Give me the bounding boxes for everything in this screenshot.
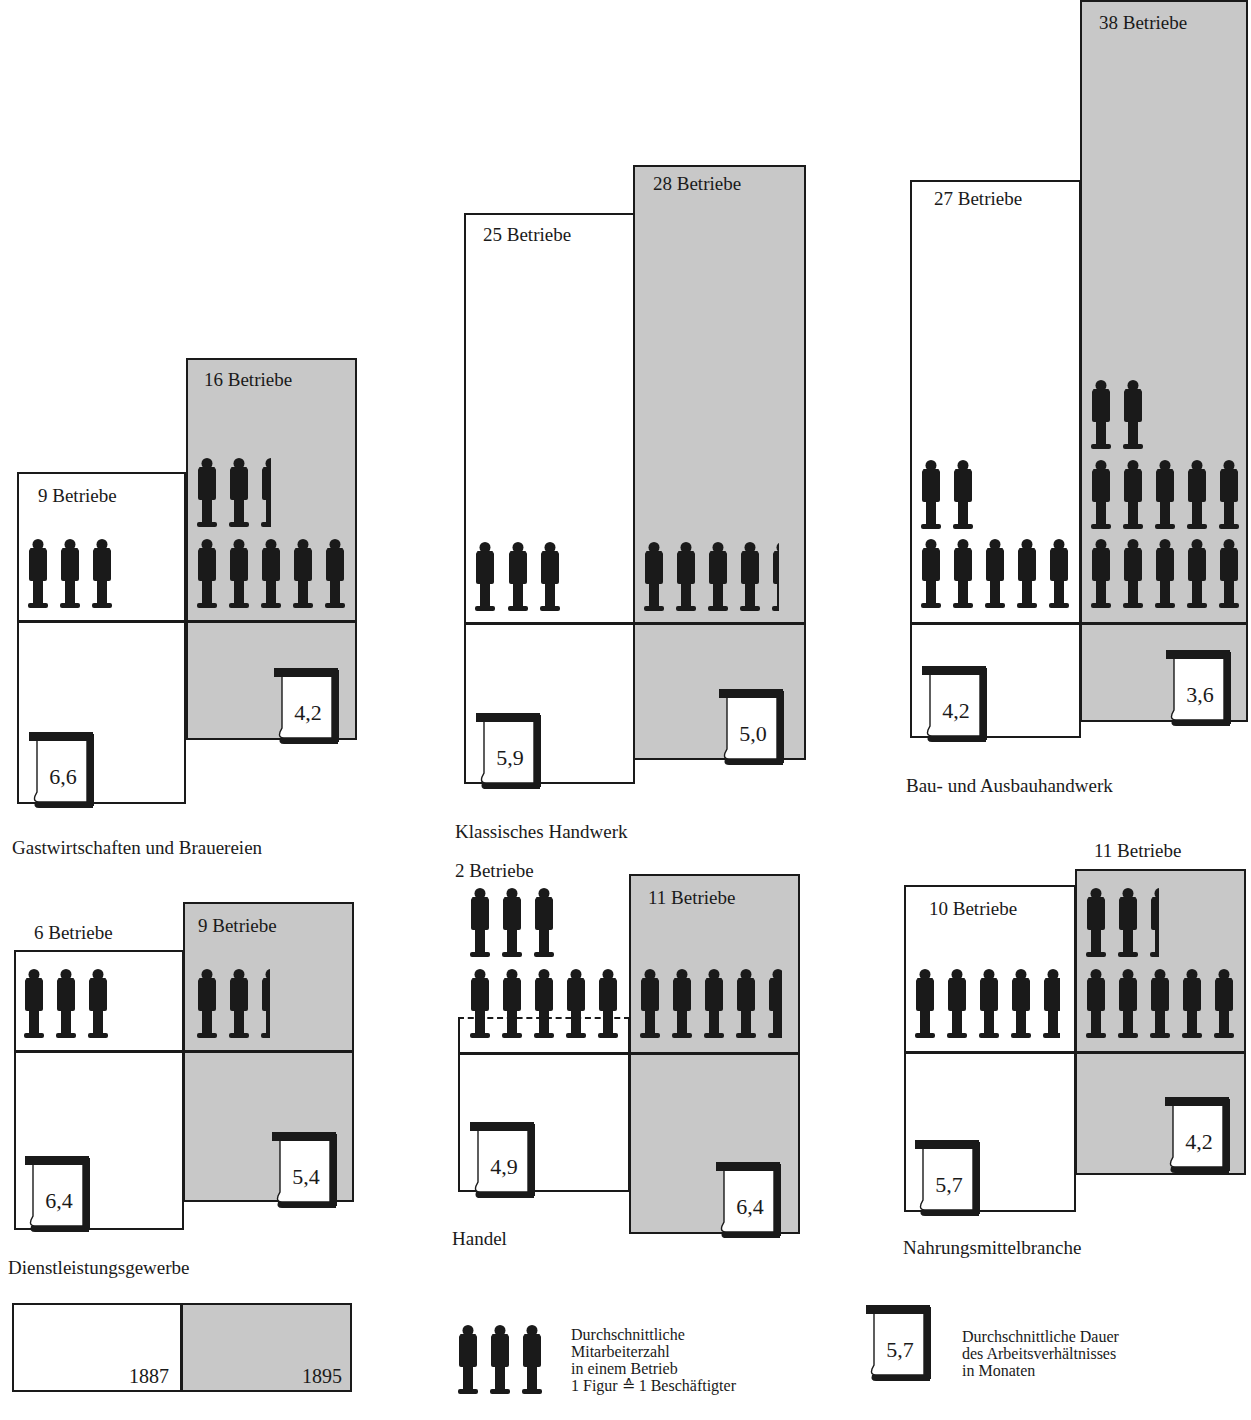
- person-figure-icon: [952, 460, 974, 530]
- calendar-icon: 5,7: [913, 1138, 983, 1218]
- person-figure-icon: [23, 969, 45, 1039]
- person-figure-icon: [1186, 539, 1208, 609]
- person-figure-icon: [1090, 380, 1112, 450]
- sector-title: Dienstleistungsgewerbe: [8, 1258, 190, 1277]
- betriebe-count-label: 25 Betriebe: [483, 225, 571, 244]
- legend-person-figure-icon: [457, 1325, 479, 1395]
- person-figure-icon: [597, 969, 619, 1039]
- calendar-icon: 6,4: [23, 1154, 93, 1234]
- baseline-divider: [17, 620, 357, 623]
- person-figure-icon: [1218, 460, 1240, 530]
- person-figure-icon: [533, 969, 555, 1039]
- calendar-icon: 5,4: [270, 1130, 340, 1210]
- betriebe-count-label: 16 Betriebe: [204, 370, 292, 389]
- betriebe-count-label: 9 Betriebe: [38, 486, 117, 505]
- person-figure-icon: [228, 458, 250, 528]
- person-figure-icon: [27, 539, 49, 609]
- person-figure-icon: [59, 539, 81, 609]
- person-figure-icon: [675, 542, 697, 612]
- person-figure-icon: [643, 542, 665, 612]
- legend-calendar-icon: 5,7: [864, 1303, 934, 1383]
- infographic-canvas: 9 Betriebe 6,616 Betriebe 4,2Gastwirtsch…: [0, 0, 1251, 1420]
- person-figure-icon: [533, 888, 555, 958]
- duration-months-value: 5,4: [282, 1166, 330, 1188]
- person-figure-icon: [1213, 969, 1235, 1039]
- person-figure-icon: [87, 969, 109, 1039]
- betriebe-count-label: 28 Betriebe: [653, 174, 741, 193]
- legend-person-figure-icon: [521, 1325, 543, 1395]
- calendar-icon: 4,2: [272, 666, 342, 746]
- person-figure-icon: [978, 969, 1000, 1039]
- person-figure-icon: [539, 542, 561, 612]
- duration-months-value: 5,9: [486, 747, 534, 769]
- calendar-icon: 4,2: [920, 664, 990, 744]
- duration-months-value: 4,2: [932, 700, 980, 722]
- person-figure-icon: [1016, 539, 1038, 609]
- person-figure-icon: [260, 539, 282, 609]
- duration-months-value: 4,9: [480, 1156, 528, 1178]
- sector-title: Gastwirtschaften und Brauereien: [12, 838, 262, 857]
- calendar-icon: 4,9: [468, 1120, 538, 1200]
- person-figure-icon: [952, 539, 974, 609]
- person-figure-icon: [228, 539, 250, 609]
- person-figure-icon: [260, 458, 271, 528]
- bar-1887: [464, 213, 635, 784]
- person-figure-icon: [1085, 888, 1107, 958]
- person-figure-icon: [914, 969, 936, 1039]
- legend-year-1887: 1887: [129, 1366, 169, 1388]
- baseline-divider: [904, 1051, 1246, 1054]
- betriebe-count-label: 11 Betriebe: [648, 888, 735, 907]
- person-figure-icon: [1122, 460, 1144, 530]
- baseline-divider: [458, 1052, 800, 1055]
- betriebe-count-label: 9 Betriebe: [198, 916, 277, 935]
- duration-months-value: 6,4: [726, 1196, 774, 1218]
- person-figure-icon: [1042, 969, 1060, 1039]
- person-figure-icon: [1117, 969, 1139, 1039]
- person-figure-icon: [1149, 969, 1171, 1039]
- person-figure-icon: [707, 542, 729, 612]
- person-figure-icon: [1218, 539, 1240, 609]
- betriebe-count-label: 10 Betriebe: [929, 899, 1017, 918]
- duration-months-value: 6,6: [39, 766, 87, 788]
- betriebe-count-label: 27 Betriebe: [934, 189, 1022, 208]
- sector-title: Nahrungsmittelbranche: [903, 1238, 1081, 1257]
- legend-year-1895: 1895: [302, 1366, 342, 1386]
- legend-calendar-description: Durchschnittliche Dauer des Arbeitsverhä…: [962, 1328, 1119, 1379]
- person-figure-icon: [91, 539, 113, 609]
- person-figure-icon: [196, 969, 218, 1039]
- person-figure-icon: [1122, 539, 1144, 609]
- person-figure-icon: [474, 542, 496, 612]
- person-figure-icon: [507, 542, 529, 612]
- calendar-icon: 6,4: [714, 1160, 784, 1240]
- person-figure-icon: [920, 460, 942, 530]
- person-figure-icon: [946, 969, 968, 1039]
- calendar-icon: 5,9: [474, 711, 544, 791]
- person-figure-icon: [55, 969, 77, 1039]
- person-figure-icon: [767, 969, 782, 1039]
- person-figure-icon: [228, 969, 250, 1039]
- betriebe-count-label: 2 Betriebe: [455, 861, 534, 880]
- calendar-icon: 3,6: [1164, 648, 1234, 728]
- person-figure-icon: [1149, 888, 1159, 958]
- person-figure-icon: [501, 969, 523, 1039]
- person-figure-icon: [739, 542, 761, 612]
- sector-title: Bau- und Ausbauhandwerk: [906, 776, 1113, 795]
- person-figure-icon: [1010, 969, 1032, 1039]
- baseline-divider: [464, 622, 806, 625]
- duration-months-value: 4,2: [1175, 1131, 1223, 1153]
- bar-1895: [1080, 0, 1248, 722]
- calendar-icon: 4,2: [1163, 1095, 1233, 1175]
- person-figure-icon: [1117, 888, 1139, 958]
- person-figure-icon: [324, 539, 346, 609]
- bar-1887: [910, 180, 1081, 738]
- person-figure-icon: [1048, 539, 1070, 609]
- duration-months-value: 3,6: [1176, 684, 1224, 706]
- duration-months-value: 5,0: [729, 723, 777, 745]
- duration-months-value: 5,7: [876, 1339, 924, 1361]
- person-figure-icon: [703, 969, 725, 1039]
- bar-1895: [633, 165, 806, 760]
- person-figure-icon: [671, 969, 693, 1039]
- person-figure-icon: [771, 542, 779, 612]
- calendar-icon: 5,0: [717, 687, 787, 767]
- betriebe-count-label: 38 Betriebe: [1099, 13, 1187, 32]
